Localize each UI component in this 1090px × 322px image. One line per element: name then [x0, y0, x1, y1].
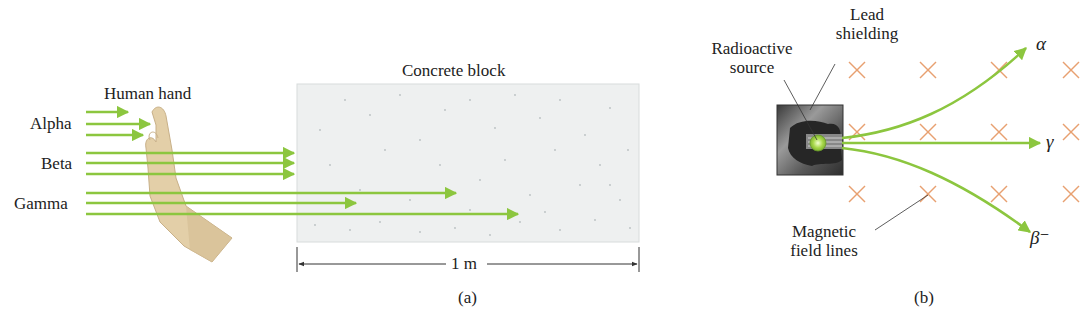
alpha-rays [86, 112, 150, 135]
lead-shielding-line1: Lead [822, 6, 912, 25]
concrete-block [297, 84, 639, 242]
radioactive-source [810, 135, 826, 151]
beta-rays [86, 153, 294, 174]
gamma-label: Gamma [14, 195, 68, 214]
concrete-block-label: Concrete block [402, 62, 505, 81]
caption-b: (b) [914, 289, 934, 308]
radioactive-source-line1: Radioactive [700, 40, 804, 59]
human-hand [146, 107, 232, 262]
alpha-label: Alpha [30, 115, 72, 134]
magnetic-field-line1: Magnetic [777, 223, 871, 242]
beam-beta [842, 148, 1030, 232]
beta-minus-symbol: β⁻ [1030, 228, 1050, 249]
radioactive-source-line2: source [700, 59, 804, 78]
magnetic-field-label: Magnetic field lines [777, 223, 871, 260]
magnetic-field-line2: field lines [777, 242, 871, 261]
magnetic-field-markers [849, 62, 1079, 202]
beta-label: Beta [41, 155, 72, 174]
caption-a: (a) [458, 289, 477, 308]
alpha-symbol: α [1036, 34, 1046, 55]
beam-alpha [842, 48, 1026, 138]
dimension-label: 1 m [451, 255, 477, 274]
lead-shielding-label: Lead shielding [822, 6, 912, 43]
gamma-symbol: γ [1046, 132, 1054, 153]
radioactive-source-label: Radioactive source [700, 40, 804, 77]
lead-shielding-line2: shielding [822, 25, 912, 44]
diagram-canvas [0, 0, 1090, 322]
human-hand-label: Human hand [104, 85, 191, 104]
lead-shielding [777, 105, 843, 175]
